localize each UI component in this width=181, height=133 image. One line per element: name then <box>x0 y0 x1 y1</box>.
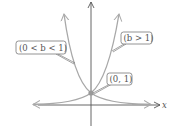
decay-curve <box>64 14 149 105</box>
svg-text:(b > 1): (b > 1) <box>124 33 154 43</box>
svg-text:(0, 1): (0, 1) <box>110 74 133 84</box>
growth-label: (b > 1) <box>121 32 154 44</box>
intercept-point <box>88 90 93 95</box>
growth-leader <box>112 44 126 52</box>
exponential-diagram: x (0 < b < 1) (b > 1) (0, 1) <box>0 0 181 133</box>
x-axis-label: x <box>162 100 167 110</box>
intercept-label: (0, 1) <box>107 73 132 85</box>
svg-text:(0 < b < 1): (0 < b < 1) <box>19 43 67 53</box>
decay-label: (0 < b < 1) <box>16 41 67 54</box>
growth-curve <box>33 14 119 105</box>
